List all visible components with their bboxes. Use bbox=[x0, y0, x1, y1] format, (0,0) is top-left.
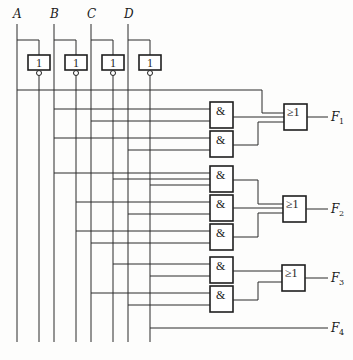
and-gate-2: & bbox=[210, 131, 233, 157]
svg-text:&: & bbox=[216, 104, 226, 118]
svg-text:2: 2 bbox=[339, 209, 344, 218]
logic-circuit-diagram: A B C D 1 1 1 1 bbox=[0, 0, 353, 360]
and-gate-3: & bbox=[210, 166, 233, 192]
input-label-b: B bbox=[49, 7, 59, 21]
and-gate-7: & bbox=[210, 286, 233, 312]
svg-text:1: 1 bbox=[110, 56, 116, 70]
svg-text:1: 1 bbox=[36, 56, 42, 70]
svg-text:&: & bbox=[216, 288, 226, 302]
svg-text:3: 3 bbox=[339, 278, 344, 287]
svg-text:1: 1 bbox=[339, 117, 344, 126]
svg-text:≥1: ≥1 bbox=[287, 105, 300, 119]
input-label-a: A bbox=[12, 7, 22, 21]
and-gate-1: & bbox=[210, 102, 233, 128]
svg-text:&: & bbox=[216, 133, 226, 147]
not-gate-c: 1 bbox=[102, 55, 124, 76]
or-gate-1: ≥1 bbox=[284, 104, 307, 130]
output-label-f1: F 1 bbox=[330, 110, 344, 126]
svg-text:4: 4 bbox=[339, 328, 344, 337]
svg-text:&: & bbox=[216, 259, 226, 273]
svg-text:1: 1 bbox=[147, 56, 153, 70]
and-gate-5: & bbox=[210, 224, 233, 250]
not-gate-b: 1 bbox=[65, 55, 87, 76]
input-label-c: C bbox=[87, 7, 96, 21]
and-output-wires bbox=[233, 117, 284, 300]
svg-text:&: & bbox=[216, 168, 226, 182]
output-label-f3: F 3 bbox=[330, 271, 344, 287]
complement-lines bbox=[39, 76, 150, 342]
circuit-svg: A B C D 1 1 1 1 bbox=[0, 0, 353, 360]
and-gate-4: & bbox=[210, 195, 233, 221]
input-label-d: D bbox=[123, 7, 134, 21]
svg-text:1: 1 bbox=[73, 56, 79, 70]
or-gate-2: ≥1 bbox=[283, 196, 306, 222]
svg-text:&: & bbox=[216, 226, 226, 240]
not-gate-d: 1 bbox=[139, 55, 161, 76]
svg-text:≥1: ≥1 bbox=[285, 266, 298, 280]
and-gate-6: & bbox=[210, 257, 233, 283]
or-gate-3: ≥1 bbox=[282, 265, 305, 291]
output-label-f4: F 4 bbox=[330, 321, 344, 337]
output-label-f2: F 2 bbox=[330, 202, 344, 218]
not-gate-a: 1 bbox=[28, 55, 50, 76]
svg-text:&: & bbox=[216, 197, 226, 211]
svg-text:≥1: ≥1 bbox=[286, 197, 299, 211]
and-input-wires bbox=[54, 109, 210, 305]
